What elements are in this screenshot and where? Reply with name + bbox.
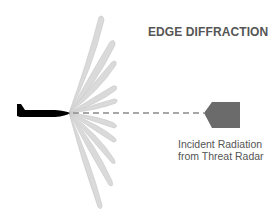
incident-radiation-caption: Incident Radiation from Threat Radar [178, 138, 264, 162]
incident-radar-arrow [204, 102, 240, 128]
caption-line-2: from Threat Radar [178, 150, 264, 162]
aircraft-silhouette [17, 104, 70, 117]
diagram-title: EDGE DIFFRACTION [148, 25, 268, 39]
diffraction-lobes [69, 16, 117, 209]
caption-line-1: Incident Radiation [178, 138, 264, 150]
